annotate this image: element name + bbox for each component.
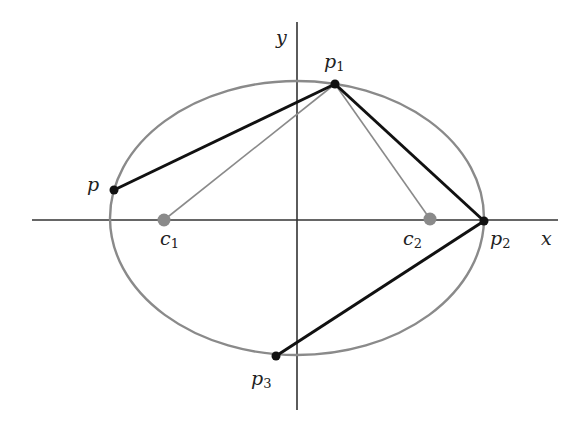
focus-c2 <box>424 213 437 226</box>
label-p: p <box>87 173 99 195</box>
label-p1: p1 <box>324 50 344 74</box>
label-p2: p2 <box>490 227 510 251</box>
label-p3: p3 <box>251 367 271 391</box>
segment-p2-p3 <box>276 221 484 356</box>
point-p1 <box>331 80 340 89</box>
label-c2: c2 <box>403 227 422 251</box>
point-p <box>110 186 119 195</box>
focus-c1 <box>158 214 171 227</box>
y-axis-label: y <box>275 26 287 48</box>
ellipse-diagram: y x p p1 p2 p3 c1 c2 <box>0 0 586 429</box>
point-p2 <box>480 217 489 226</box>
x-axis-label: x <box>541 227 552 249</box>
label-c1: c1 <box>160 227 179 251</box>
segment-c2-p1 <box>335 84 430 219</box>
point-p3 <box>272 352 281 361</box>
segment-c1-p1 <box>164 84 335 220</box>
